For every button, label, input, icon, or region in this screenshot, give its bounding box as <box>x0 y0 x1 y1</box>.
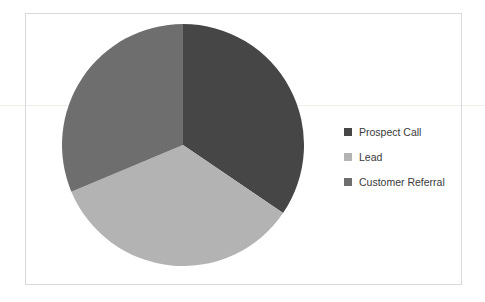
pie-slices <box>62 24 304 266</box>
chart-legend: Prospect Call Lead Customer Referral <box>344 119 464 194</box>
legend-swatch-icon-lead <box>344 153 352 161</box>
legend-item-customer-referral[interactable]: Customer Referral <box>344 169 464 194</box>
legend-item-lead[interactable]: Lead <box>344 144 464 169</box>
pie-svg <box>62 24 304 266</box>
plot-area: Prospect Call Lead Customer Referral <box>0 0 485 302</box>
legend-label-customer-referral: Customer Referral <box>359 176 445 188</box>
legend-item-prospect-call[interactable]: Prospect Call <box>344 119 464 144</box>
legend-swatch-icon-customer-referral <box>344 178 352 186</box>
legend-swatch-icon-prospect-call <box>344 128 352 136</box>
legend-label-prospect-call: Prospect Call <box>359 126 421 138</box>
pie-chart-figure: Prospect Call Lead Customer Referral <box>0 0 485 302</box>
legend-label-lead: Lead <box>359 151 382 163</box>
